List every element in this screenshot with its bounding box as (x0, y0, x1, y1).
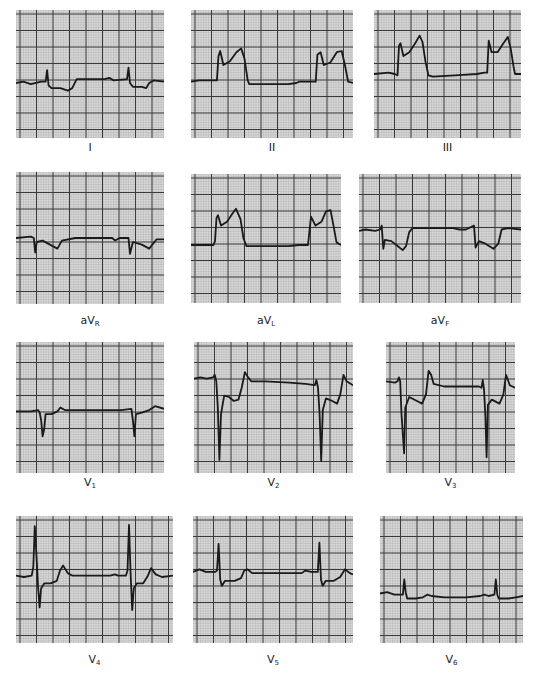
ecg-lead-v6 (380, 516, 523, 643)
lead-label-subscript: F (445, 320, 449, 328)
ecg-lead-iii (374, 10, 521, 138)
ecg-grid (386, 342, 515, 473)
lead-label-subscript: 2 (275, 482, 279, 490)
ecg-grid (380, 516, 523, 643)
lead-label-avr: aVR (16, 314, 164, 328)
lead-label-main: V (268, 476, 276, 489)
ecg-grid (374, 10, 521, 138)
lead-label-avl: aVL (191, 314, 341, 328)
ecg-lead-avl (191, 174, 341, 303)
ecg-grid (359, 174, 521, 303)
lead-label-i: I (16, 141, 164, 155)
lead-label-subscript: L (271, 320, 275, 328)
ecg-lead-v3 (386, 342, 515, 473)
ecg-grid (191, 174, 341, 303)
ecg-lead-avr (16, 172, 164, 304)
ecg-lead-v5 (193, 516, 353, 643)
lead-label-subscript: 1 (92, 482, 96, 490)
ecg-grid (16, 10, 164, 138)
lead-label-subscript: 3 (452, 482, 456, 490)
lead-label-main: V (84, 476, 92, 489)
lead-label-avf: aVF (359, 314, 521, 328)
lead-label-main: II (269, 141, 276, 154)
ecg-grid (193, 516, 353, 643)
lead-label-main: V (267, 653, 275, 666)
ecg-grid (191, 10, 353, 138)
lead-label-main: V (438, 314, 446, 327)
lead-label-v1: V1 (16, 476, 164, 490)
lead-label-iii: III (374, 141, 521, 155)
lead-label-prefix: a (257, 314, 264, 327)
lead-label-v3: V3 (386, 476, 515, 490)
ecg-lead-v1 (16, 342, 164, 473)
ecg-lead-i (16, 10, 164, 138)
lead-label-v2: V2 (194, 476, 353, 490)
lead-label-main: V (89, 653, 97, 666)
ecg-grid (194, 342, 353, 473)
lead-label-v4: V4 (16, 653, 173, 667)
lead-label-subscript: 6 (453, 659, 457, 667)
lead-label-main: V (446, 653, 454, 666)
ecg-lead-avf (359, 174, 521, 303)
lead-label-ii: II (191, 141, 353, 155)
lead-label-main: V (445, 476, 453, 489)
ecg-lead-ii (191, 10, 353, 138)
ecg-grid (16, 516, 173, 643)
ecg-grid (16, 172, 164, 304)
lead-label-v6: V6 (380, 653, 523, 667)
lead-label-prefix: a (431, 314, 438, 327)
ecg-lead-v4 (16, 516, 173, 643)
lead-label-main: III (443, 141, 453, 154)
lead-label-main: V (87, 314, 95, 327)
lead-label-main: I (88, 141, 91, 154)
lead-label-subscript: 5 (275, 659, 279, 667)
lead-label-subscript: R (95, 320, 100, 328)
ecg-lead-v2 (194, 342, 353, 473)
ecg-grid (16, 342, 164, 473)
lead-label-subscript: 4 (96, 659, 100, 667)
lead-label-v5: V5 (193, 653, 353, 667)
